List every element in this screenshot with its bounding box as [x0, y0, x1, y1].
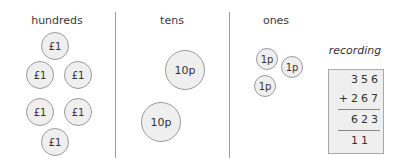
tens-label: tens — [160, 14, 184, 27]
carries: 11 — [351, 134, 371, 147]
addend-2: +267 — [339, 92, 381, 105]
pound-coin: £1 — [41, 32, 69, 60]
one-penny-coin: 1p — [281, 56, 303, 78]
one-penny-coin: 1p — [254, 75, 276, 97]
pound-coin: £1 — [41, 128, 69, 156]
hundreds-label: hundreds — [31, 14, 83, 27]
sum: 623 — [351, 113, 381, 126]
sum-line — [338, 109, 380, 110]
ten-pence-coin: 10p — [141, 102, 181, 142]
pound-coin: £1 — [64, 61, 92, 89]
recording-title: recording — [329, 44, 382, 57]
one-penny-coin: 1p — [256, 48, 278, 70]
carry-line — [338, 130, 380, 131]
column-divider-2 — [229, 12, 230, 158]
ones-label: ones — [263, 14, 289, 27]
addend-1: 356 — [351, 73, 381, 86]
pound-coin: £1 — [26, 61, 54, 89]
column-divider-1 — [115, 12, 116, 158]
pound-coin: £1 — [64, 98, 92, 126]
ten-pence-coin: 10p — [165, 50, 205, 90]
pound-coin: £1 — [26, 98, 54, 126]
